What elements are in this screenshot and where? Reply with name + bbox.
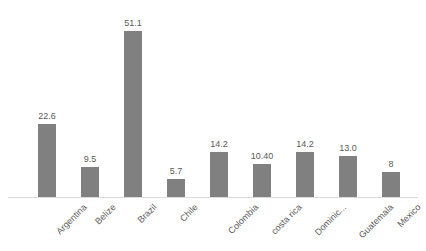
bar-value-label: 8 (388, 159, 393, 170)
tick-label-text: Colombia (226, 202, 260, 236)
bar-value-label: 13.0 (339, 143, 357, 154)
bar-value-label: 10.40 (251, 151, 274, 162)
bar[interactable] (296, 152, 314, 198)
bar-group: 8 (370, 0, 412, 198)
bar-group: 10.40 (241, 0, 283, 198)
x-axis-tick-label: Guatemala (357, 202, 395, 240)
bar-group: 22.6 (26, 0, 68, 198)
x-axis-tick-label: Brazil (136, 202, 159, 225)
tick-label-text: Argentina (54, 202, 88, 236)
tick-label-text: Dominic... (313, 202, 348, 237)
bar[interactable] (167, 179, 185, 198)
bar-value-label: 5.7 (170, 166, 183, 177)
x-axis-tick-label: Colombia (226, 202, 260, 236)
bar-group: 5.7 (155, 0, 197, 198)
x-axis-tick-label: costa rica (269, 202, 303, 236)
bar-group: 14.2 (284, 0, 326, 198)
bar-group: 13.0 (327, 0, 369, 198)
bar-group: 51.1 (112, 0, 154, 198)
bar-value-label: 14.2 (210, 139, 228, 150)
tick-label-text: costa rica (269, 202, 303, 236)
bar[interactable] (253, 164, 271, 198)
x-axis-tick-label: Mexico (395, 202, 422, 229)
bar-group: 9.5 (69, 0, 111, 198)
bar-value-label: 9.5 (84, 154, 97, 165)
x-axis-tick-label: Chile (178, 202, 200, 224)
bar-value-label: 22.6 (38, 111, 56, 122)
x-axis-baseline (8, 197, 418, 198)
tick-label-text: Belize (93, 202, 117, 226)
bar[interactable] (81, 167, 99, 198)
x-axis-tick-label: Dominic... (313, 202, 348, 237)
bar-chart: 22.69.551.15.714.210.4014.213.08 Argenti… (0, 0, 426, 251)
plot-area: 22.69.551.15.714.210.4014.213.08 (0, 0, 426, 198)
bar[interactable] (382, 172, 400, 198)
x-axis-tick-label: Belize (93, 202, 117, 226)
tick-label-text: Mexico (395, 202, 422, 229)
bar[interactable] (210, 152, 228, 198)
tick-label-text: Brazil (136, 202, 159, 225)
bar[interactable] (339, 156, 357, 198)
tick-label-text: Chile (178, 202, 200, 224)
tick-label-text: Guatemala (357, 202, 395, 240)
bar[interactable] (38, 124, 56, 198)
bar-value-label: 14.2 (296, 139, 314, 150)
bar-value-label: 51.1 (124, 18, 142, 29)
bar[interactable] (124, 31, 142, 198)
bar-group: 14.2 (198, 0, 240, 198)
x-axis-tick-label: Argentina (54, 202, 88, 236)
